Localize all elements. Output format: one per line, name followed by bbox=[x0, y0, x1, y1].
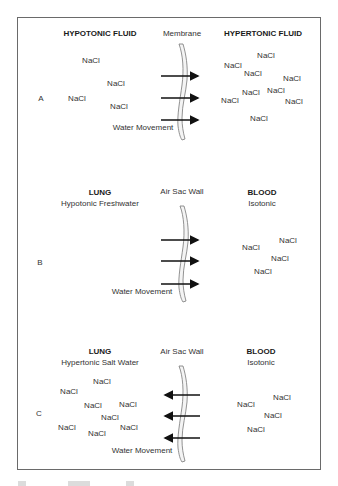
solute-nacl: NaCl bbox=[224, 61, 242, 70]
left-subtitle: Hypertonic Salt Water bbox=[61, 358, 139, 367]
solute-nacl: NaCl bbox=[93, 377, 111, 386]
solute-nacl: NaCl bbox=[250, 114, 268, 123]
left-title: LUNG bbox=[89, 347, 112, 356]
right-title: BLOOD bbox=[248, 188, 277, 197]
solute-nacl: NaCl bbox=[68, 94, 86, 103]
solute-nacl: NaCl bbox=[285, 97, 303, 106]
solute-nacl: NaCl bbox=[221, 96, 239, 105]
barrier-label: Air Sac Wall bbox=[160, 187, 203, 196]
solute-nacl: NaCl bbox=[273, 393, 291, 402]
cropped-caption-fragment bbox=[126, 481, 134, 486]
solute-nacl: NaCl bbox=[264, 411, 282, 420]
left-title: LUNG bbox=[89, 188, 112, 197]
flow-label: Water Movement bbox=[113, 123, 174, 132]
solute-nacl: NaCl bbox=[237, 400, 255, 409]
right-subtitle: Isotonic bbox=[247, 358, 275, 367]
panel-label: B bbox=[37, 258, 42, 267]
right-title: HYPERTONIC FLUID bbox=[224, 29, 302, 38]
cropped-caption-fragment bbox=[18, 481, 26, 486]
solute-nacl: NaCl bbox=[283, 74, 301, 83]
solute-nacl: NaCl bbox=[107, 79, 125, 88]
solute-nacl: NaCl bbox=[242, 88, 260, 97]
solute-nacl: NaCl bbox=[254, 267, 272, 276]
solute-nacl: NaCl bbox=[60, 387, 78, 396]
left-title: HYPOTONIC FLUID bbox=[63, 29, 136, 38]
solute-nacl: NaCl bbox=[242, 243, 260, 252]
solute-nacl: NaCl bbox=[257, 51, 275, 60]
panel-label: A bbox=[38, 94, 43, 103]
barrier-label: Membrane bbox=[163, 29, 201, 38]
solute-nacl: NaCl bbox=[267, 86, 285, 95]
membrane-a bbox=[178, 44, 187, 140]
right-title: BLOOD bbox=[247, 347, 276, 356]
solute-nacl: NaCl bbox=[110, 102, 128, 111]
flow-label: Water Movement bbox=[112, 446, 173, 455]
right-subtitle: Isotonic bbox=[248, 199, 276, 208]
solute-nacl: NaCl bbox=[82, 56, 100, 65]
membrane-b bbox=[179, 206, 188, 302]
solute-nacl: NaCl bbox=[58, 423, 76, 432]
membrane-c bbox=[178, 366, 187, 462]
flow-label: Water Movement bbox=[112, 287, 173, 296]
solute-nacl: NaCl bbox=[120, 423, 138, 432]
solute-nacl: NaCl bbox=[101, 413, 119, 422]
solute-nacl: NaCl bbox=[88, 429, 106, 438]
solute-nacl: NaCl bbox=[279, 236, 297, 245]
solute-nacl: NaCl bbox=[119, 400, 137, 409]
barrier-label: Air Sac Wall bbox=[160, 347, 203, 356]
panel-label: C bbox=[36, 409, 42, 418]
solute-nacl: NaCl bbox=[244, 69, 262, 78]
solute-nacl: NaCl bbox=[271, 254, 289, 263]
solute-nacl: NaCl bbox=[247, 425, 265, 434]
left-subtitle: Hypotonic Freshwater bbox=[61, 199, 139, 208]
solute-nacl: NaCl bbox=[84, 401, 102, 410]
cropped-caption-fragment bbox=[68, 481, 90, 486]
